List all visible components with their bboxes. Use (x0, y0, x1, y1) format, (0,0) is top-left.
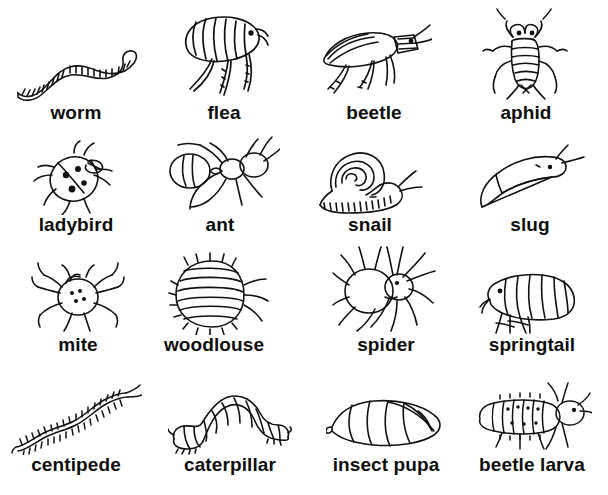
label-worm: worm (50, 103, 101, 134)
ant-icon (160, 135, 280, 215)
chart-cell-woodlouse[interactable]: woodlouse (138, 248, 290, 364)
label-caterpillar: caterpillar (184, 455, 276, 482)
ladybird-icon (30, 139, 122, 215)
woodlouse-icon (158, 251, 270, 335)
caterpillar-icon (168, 383, 292, 455)
label-centipede: centipede (31, 455, 121, 482)
label-flea: flea (207, 103, 240, 134)
beetle-larva-icon (472, 377, 592, 455)
spider-icon (331, 239, 441, 335)
mite-icon (28, 253, 128, 335)
chart-cell-slug[interactable]: slug (454, 134, 606, 248)
chart-cell-beetle[interactable]: beetle (298, 6, 450, 134)
chart-cell-aphid[interactable]: aphid (450, 6, 602, 134)
label-ladybird: ladybird (39, 215, 114, 248)
chart-cell-beetle-larva[interactable]: beetle larva (456, 364, 608, 482)
flea-icon (172, 9, 276, 103)
label-beetle-larva: beetle larva (479, 455, 585, 482)
insect-pupa-icon (326, 389, 446, 455)
centipede-icon (10, 381, 142, 455)
springtail-icon (476, 265, 588, 335)
worm-icon (10, 45, 142, 103)
beetle-icon (316, 15, 432, 103)
chart-cell-spider[interactable]: spider (310, 248, 462, 364)
chart-cell-springtail[interactable]: springtail (456, 248, 608, 364)
chart-cell-snail[interactable]: snail (294, 134, 446, 248)
chart-cell-flea[interactable]: flea (148, 6, 300, 134)
chart-cell-caterpillar[interactable]: caterpillar (154, 364, 306, 482)
label-slug: slug (510, 215, 549, 248)
label-ant: ant (206, 215, 235, 248)
chart-cell-insect-pupa[interactable]: insect pupa (310, 364, 462, 482)
chart-cell-ant[interactable]: ant (144, 134, 296, 248)
label-insect-pupa: insect pupa (333, 455, 440, 482)
snail-icon (312, 141, 428, 215)
minibeast-chart: worm (0, 0, 608, 495)
label-aphid: aphid (500, 103, 551, 134)
chart-cell-mite[interactable]: mite (2, 248, 154, 364)
label-springtail: springtail (489, 335, 576, 364)
chart-cell-ladybird[interactable]: ladybird (0, 134, 152, 248)
chart-row-3: mite (0, 248, 608, 364)
chart-row-4: centipede (0, 364, 608, 482)
chart-cell-centipede[interactable]: centipede (0, 364, 152, 482)
label-woodlouse: woodlouse (164, 335, 264, 364)
slug-icon (472, 141, 588, 215)
chart-row-2: ladybird (0, 134, 608, 248)
label-mite: mite (58, 335, 97, 364)
chart-row-1: worm (0, 6, 608, 134)
chart-cell-worm[interactable]: worm (0, 6, 152, 134)
aphid-icon (477, 7, 575, 103)
label-beetle: beetle (346, 103, 402, 134)
label-spider: spider (357, 335, 415, 364)
